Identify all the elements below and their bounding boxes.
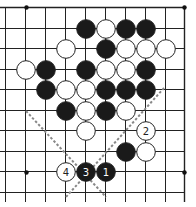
white-stone [97,20,116,39]
move-number-label: 1 [103,167,109,178]
black-stone [97,40,116,59]
white-stone [57,40,76,59]
white-stone [157,40,176,59]
black-stone [37,61,56,80]
black-stone [117,81,136,100]
move-number-label: 2 [143,126,149,137]
black-stone [77,20,96,39]
move-number-label: 3 [83,167,89,178]
black-stone [137,81,156,100]
white-stone: 2 [137,122,156,141]
white-stone [117,102,136,121]
star-point-icon [24,5,28,9]
black-stone [77,61,96,80]
white-stone [57,81,76,100]
black-stone: 1 [97,163,116,182]
black-stone [97,102,116,121]
dashed-guide-lines [26,88,164,197]
white-stone [77,102,96,121]
black-stone: 3 [77,163,96,182]
white-stone [137,143,156,162]
white-stone [137,40,156,59]
go-board-diagram: 2431 [0,0,196,207]
black-stone [117,20,136,39]
white-stone [97,61,116,80]
black-stone [97,81,116,100]
black-stone [57,102,76,121]
star-point-icon [24,170,28,174]
white-stone [17,61,36,80]
white-stone [117,40,136,59]
star-point-icon [182,5,186,9]
black-stone [117,143,136,162]
black-stone [37,81,56,100]
white-stone [77,122,96,141]
star-point-icon [182,170,186,174]
black-stone [137,61,156,80]
stones-layer: 2431 [17,20,176,182]
move-number-label: 4 [63,167,69,178]
white-stone [117,61,136,80]
white-stone: 4 [57,163,76,182]
white-stone [77,81,96,100]
black-stone [137,20,156,39]
